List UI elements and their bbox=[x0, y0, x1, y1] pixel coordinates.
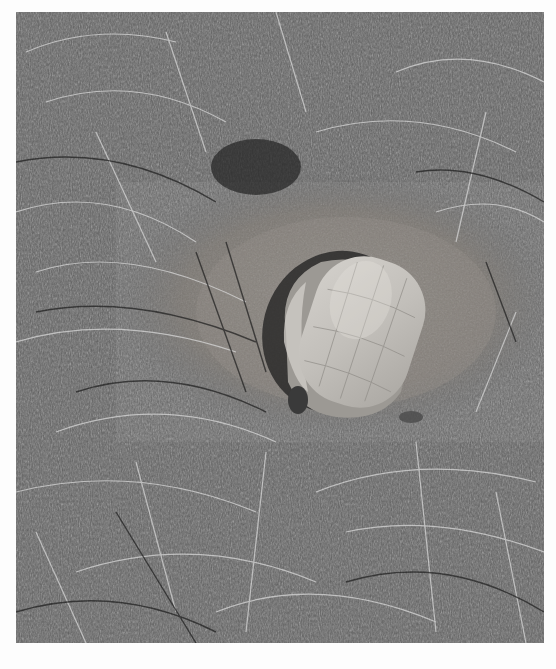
page bbox=[0, 0, 556, 669]
turtle-in-grass-image bbox=[16, 12, 544, 643]
photograph bbox=[16, 12, 544, 643]
